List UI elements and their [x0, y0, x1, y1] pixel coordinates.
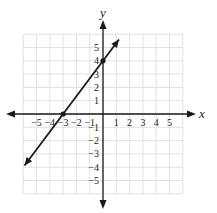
y-tick-label: −1 [88, 122, 99, 133]
y-tick-label: 4 [94, 55, 99, 66]
y-tick-label: −2 [88, 135, 99, 146]
intercept-point [61, 111, 66, 116]
x-tick-label: 2 [127, 117, 132, 128]
x-tick-label: 1 [114, 117, 119, 128]
coordinate-plane: −5−4−3−2−11234554321−1−2−3−4−5 x y [0, 0, 217, 213]
x-tick-label: 5 [167, 117, 172, 128]
x-tick-label: −5 [31, 117, 42, 128]
y-axis-label: y [98, 5, 106, 20]
y-tick-label: −3 [88, 148, 99, 159]
y-tick-label: 5 [94, 42, 99, 53]
x-tick-label: 3 [140, 117, 145, 128]
y-tick-label: −4 [88, 162, 99, 173]
y-tick-label: −5 [88, 175, 99, 186]
intercept-point [100, 58, 105, 63]
y-axis-down-arrow-icon [100, 200, 107, 209]
data-line [25, 40, 119, 166]
x-tick-label: 4 [154, 117, 159, 128]
x-tick-label: −2 [71, 117, 82, 128]
plotted-line [25, 40, 119, 166]
y-axis-up-arrow-icon [100, 20, 107, 29]
y-tick-label: 2 [94, 82, 99, 93]
y-tick-label: 1 [94, 95, 99, 106]
x-axis-left-arrow-icon [6, 111, 15, 118]
x-axis-label: x [198, 106, 205, 121]
x-axis-right-arrow-icon [187, 111, 196, 118]
